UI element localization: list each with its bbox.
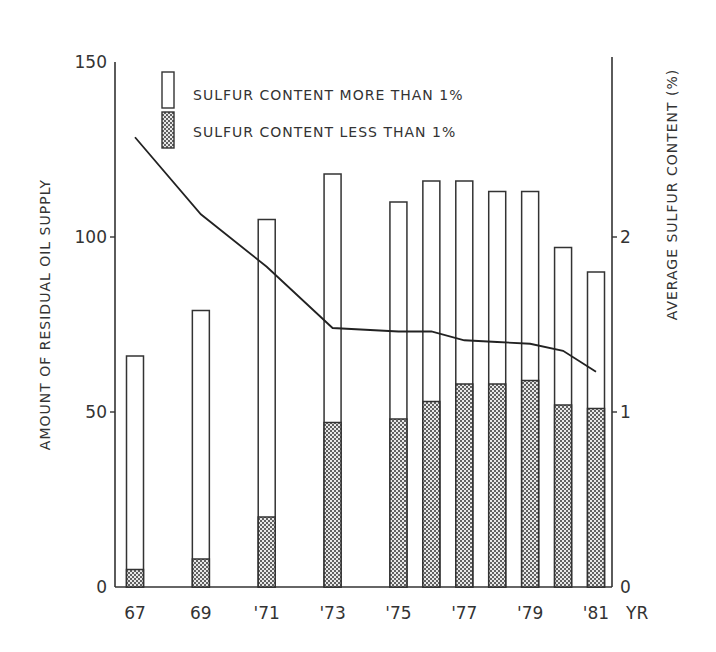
legend-swatch-hatched	[162, 112, 174, 148]
chart: 0501001500126769'71'73'75'77'79'81YRAMOU…	[0, 0, 716, 652]
right-tick-label: 1	[620, 402, 631, 422]
bar-group	[423, 181, 440, 587]
right-tick-label: 2	[620, 227, 631, 247]
bar-group	[324, 174, 341, 587]
bar-group	[522, 192, 539, 588]
x-tick-label: '75	[385, 603, 411, 623]
x-tick-label: '73	[319, 603, 345, 623]
bar-low-sulfur	[588, 409, 605, 588]
bar-group	[489, 192, 506, 588]
right-tick-label: 0	[620, 577, 631, 597]
bar-group	[555, 248, 572, 588]
bars	[127, 174, 605, 587]
bar-group	[258, 220, 275, 588]
left-tick-label: 150	[75, 52, 107, 72]
bar-group	[390, 202, 407, 587]
bar-low-sulfur	[127, 570, 144, 588]
bar-total	[127, 356, 144, 587]
bar-low-sulfur	[522, 381, 539, 588]
bar-low-sulfur	[324, 423, 341, 588]
legend: SULFUR CONTENT MORE THAN 1%SULFUR CONTEN…	[162, 72, 463, 148]
bar-low-sulfur	[258, 517, 275, 587]
x-tick-label: '79	[517, 603, 543, 623]
bar-group	[588, 272, 605, 587]
right-axis-title: AVERAGE SULFUR CONTENT (%)	[664, 69, 680, 321]
x-tick-label: '71	[254, 603, 280, 623]
x-tick-label: 67	[124, 603, 146, 623]
bar-group	[192, 311, 209, 588]
x-unit-label: YR	[625, 603, 648, 623]
bar-low-sulfur	[192, 559, 209, 587]
left-tick-label: 50	[85, 402, 107, 422]
bar-total	[192, 311, 209, 588]
left-tick-label: 0	[96, 577, 107, 597]
x-tick-label: '81	[583, 603, 609, 623]
bar-low-sulfur	[555, 405, 572, 587]
x-tick-label: 69	[190, 603, 212, 623]
bar-group	[127, 356, 144, 587]
bar-low-sulfur	[423, 402, 440, 588]
bar-low-sulfur	[456, 384, 473, 587]
legend-label-more: SULFUR CONTENT MORE THAN 1%	[193, 87, 463, 103]
legend-label-less: SULFUR CONTENT LESS THAN 1%	[193, 124, 456, 140]
left-tick-label: 100	[75, 227, 107, 247]
x-tick-label: '77	[451, 603, 477, 623]
bar-low-sulfur	[390, 419, 407, 587]
bar-low-sulfur	[489, 384, 506, 587]
bar-group	[456, 181, 473, 587]
left-axis-title: AMOUNT OF RESIDUAL OIL SUPPLY	[37, 179, 53, 450]
legend-swatch-open	[162, 72, 174, 108]
